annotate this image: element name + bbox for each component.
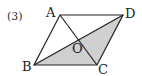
problem-number: (3)	[7, 10, 23, 23]
vertex-label-d: D	[125, 6, 135, 21]
vertex-label-b: B	[22, 59, 32, 74]
intersection-label-o: O	[72, 41, 83, 56]
vertex-label-a: A	[45, 5, 56, 20]
vertex-label-c: C	[98, 62, 108, 76]
parallelogram-diagram: (3) A D B C O	[0, 0, 142, 76]
